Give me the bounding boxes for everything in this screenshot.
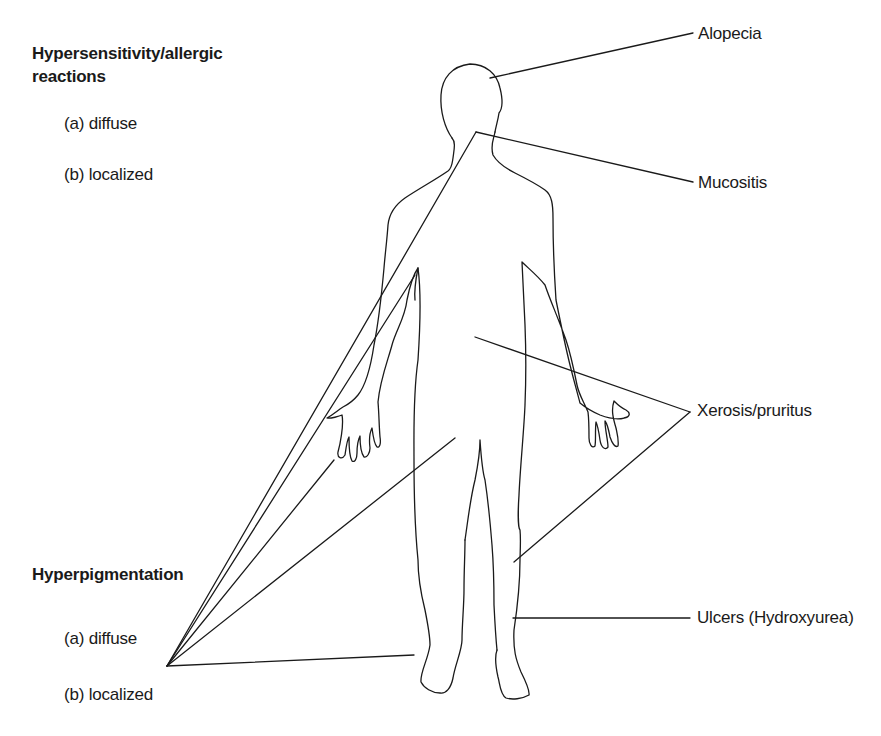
alopecia-leader-line [490, 33, 693, 78]
hyperpig-line-foot [167, 655, 414, 666]
body-outline [327, 64, 629, 699]
right-side-outline [492, 132, 629, 699]
leader-lines [167, 33, 693, 666]
mucositis-leader-line [476, 132, 693, 182]
human-body-diagram [0, 0, 881, 736]
hyperpig-line-arm [167, 275, 415, 666]
hyperpig-line-thigh [167, 438, 455, 666]
hyperpig-line-neck [167, 132, 476, 666]
left-side-outline [327, 138, 465, 693]
xerosis-line-leg [514, 412, 690, 562]
head-outline [441, 64, 502, 138]
inner-left-leg-outline [465, 440, 497, 650]
hyperpig-line-hand [167, 460, 334, 666]
